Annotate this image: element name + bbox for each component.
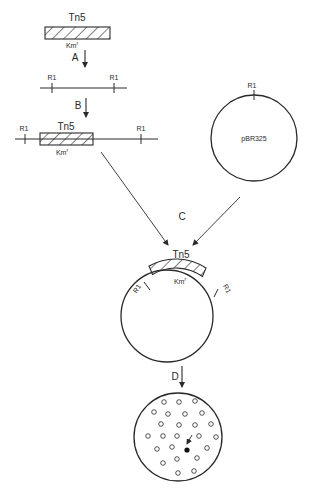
colony (146, 434, 151, 439)
colony (205, 446, 210, 451)
pbr325-plasmid: R1 pBR325 (211, 82, 297, 181)
r1-label: R1 (222, 283, 233, 294)
r1-label: R1 (48, 74, 57, 81)
plate-circle (134, 393, 222, 481)
colony (175, 457, 180, 462)
colony (195, 456, 200, 461)
r1-label: R1 (248, 82, 257, 89)
step-b: B (75, 98, 86, 117)
tn5-label: Tn5 (57, 121, 75, 132)
tn5-insert-arc (149, 259, 206, 276)
colony (192, 469, 197, 474)
colony (175, 434, 180, 439)
selected-colony (184, 447, 189, 452)
colony (200, 411, 205, 416)
plasmid-circle (121, 270, 213, 362)
colony (183, 412, 188, 417)
step-b-label: B (75, 100, 82, 111)
colony (166, 412, 171, 417)
colony (193, 423, 198, 428)
recombinant-plasmid: Tn5 Kmr R1 R1 (121, 249, 232, 362)
colony (193, 399, 198, 404)
colony (170, 445, 175, 450)
step-c-label: C (178, 211, 185, 222)
plasmid-name-label: pBR325 (241, 135, 266, 143)
colony (155, 447, 160, 452)
colony (197, 434, 202, 439)
petri-dish (134, 393, 222, 481)
r1-site-tick (214, 289, 218, 297)
step-c: C (101, 152, 240, 245)
tn5-insert-bar (40, 133, 93, 145)
colony (161, 461, 166, 466)
km-resistance-label: Kmr (56, 147, 69, 156)
colony-group (146, 399, 219, 476)
r1-label: R1 (20, 125, 29, 132)
arrow-diagonal-icon (101, 152, 168, 245)
r1-site-tick (144, 282, 150, 290)
colony (177, 423, 182, 428)
arrow-diagonal-icon (193, 197, 240, 245)
tn5-label: Tn5 (68, 12, 86, 23)
r1-label: R1 (110, 74, 119, 81)
step-d: D (171, 366, 182, 387)
colony (152, 410, 157, 415)
colony (162, 400, 167, 405)
colony (177, 400, 182, 405)
km-resistance-label: Kmr (174, 276, 187, 285)
pointer-arrow-icon (187, 435, 192, 444)
step-a-label: A (72, 52, 79, 63)
r1-label: R1 (137, 125, 146, 132)
step-a: A (72, 50, 85, 67)
colony (176, 471, 181, 476)
colony (209, 422, 214, 427)
linear-dna-2: R1 R1 Tn5 Kmr (15, 121, 158, 156)
colony (214, 435, 219, 440)
tn5-cloning-diagram: Tn5 Kmr A R1 R1 B R1 R1 Tn5 Kmr R1 pBR32… (0, 0, 311, 493)
km-resistance-label: Kmr (66, 40, 79, 49)
tn5-label: Tn5 (172, 249, 190, 260)
colony (159, 422, 164, 427)
tn5-hatched-bar (45, 27, 110, 39)
linear-dna-1: R1 R1 (40, 74, 127, 93)
colony (161, 434, 166, 439)
step-d-label: D (171, 371, 178, 382)
tn5-transposon: Tn5 Kmr (45, 12, 110, 49)
